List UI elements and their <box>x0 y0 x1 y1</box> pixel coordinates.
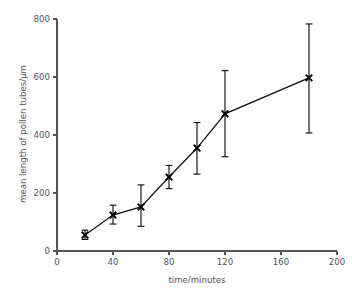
x-tick-label: 120 <box>217 257 233 267</box>
axis-tick-labels: 020040060080004080120160200 <box>34 14 346 267</box>
x-axis-title: time/minutes <box>168 275 226 285</box>
pollen-tube-growth-chart: 020040060080004080120160200 time/minutes… <box>0 0 358 290</box>
x-tick-label: 40 <box>108 257 119 267</box>
x-tick-label: 80 <box>164 257 175 267</box>
x-tick-label: 0 <box>54 257 59 267</box>
y-tick-label: 400 <box>34 130 50 140</box>
chart-container: 020040060080004080120160200 time/minutes… <box>0 0 358 290</box>
axis-ticks <box>53 19 337 255</box>
y-tick-label: 200 <box>34 188 50 198</box>
x-tick-label: 160 <box>273 257 289 267</box>
y-tick-label: 800 <box>34 14 50 24</box>
x-tick-label: 200 <box>329 257 345 267</box>
y-tick-label: 0 <box>45 246 50 256</box>
error-bars <box>82 24 313 239</box>
y-tick-label: 600 <box>34 72 50 82</box>
y-axis-title: mean length of pollen tubes/µm <box>18 65 28 203</box>
